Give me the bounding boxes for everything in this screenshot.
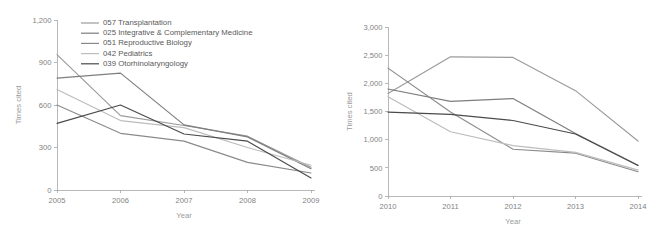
series-line-042 [388,97,638,170]
axes-right: 05001,0001,5002,0002,5003,00020102011201… [363,23,646,211]
x-tick-label: 2007 [176,196,193,205]
x-tick-label: 2013 [567,202,584,211]
legend-label-039: 039 Otorhinolaryngology [103,59,188,68]
x-tick-label: 2011 [442,202,458,211]
y-tick-label: 1,500 [363,107,382,116]
x-tick-label: 2009 [303,196,320,205]
legend-left: 057 Transplantation025 Integrative & Com… [81,18,253,68]
series-group-right [388,57,638,172]
y-axis-title: Times cited [345,92,354,131]
y-tick-label: 0 [47,186,51,195]
x-tick-label: 2012 [505,202,522,211]
y-tick-label: 600 [39,101,52,110]
citations-figure: 03006009001,20020052006200720082009 057 … [0,0,663,236]
chart-panel-left: 03006009001,20020052006200720082009 057 … [0,0,331,236]
line-chart-right: 05001,0001,5002,0002,5003,00020102011201… [331,0,663,236]
y-tick-label: 2,500 [363,51,382,60]
series-line-025 [388,89,638,165]
y-tick-label: 900 [39,58,52,67]
y-tick-label: 300 [39,143,52,152]
x-axis-title: Year [176,211,192,220]
legend-label-057: 057 Transplantation [103,18,172,27]
legend-label-051: 051 Reproductive Biology [103,38,192,47]
y-tick-label: 1,000 [363,135,382,144]
series-line-042 [57,89,311,165]
y-axis-title: Times cited [14,86,23,125]
y-tick-label: 1,200 [32,16,51,25]
y-tick-label: 0 [378,192,382,201]
series-group-left [57,55,311,178]
series-line-057 [57,55,311,168]
legend-label-025: 025 Integrative & Complementary Medicine [103,28,253,37]
x-tick-label: 2006 [112,196,129,205]
y-tick-label: 2,000 [363,79,382,88]
x-tick-label: 2014 [630,202,647,211]
legend-label-042: 042 Pediatrics [103,49,153,58]
chart-panel-right: 05001,0001,5002,0002,5003,00020102011201… [331,0,663,236]
series-line-039 [388,112,638,166]
y-tick-label: 3,000 [363,23,382,32]
x-tick-label: 2005 [49,196,66,205]
y-tick-label: 500 [370,164,383,173]
line-chart-left: 03006009001,20020052006200720082009 057 … [0,0,331,236]
series-line-051 [57,105,311,173]
x-tick-label: 2010 [380,202,397,211]
x-axis-title: Year [505,217,521,226]
x-tick-label: 2008 [239,196,256,205]
